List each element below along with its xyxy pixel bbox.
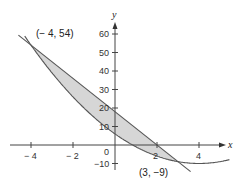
x-axis-arrow-icon xyxy=(219,143,226,148)
x-tick-label: − 4 xyxy=(24,151,37,161)
x-tick-label: 2 xyxy=(153,151,158,161)
x-tick-label: − 2 xyxy=(66,151,79,161)
x-tick-label: 4 xyxy=(196,151,201,161)
y-tick-label: 40 xyxy=(99,66,109,76)
y-tick-label: 60 xyxy=(99,29,109,39)
point-label: (− 4, 54) xyxy=(36,28,74,39)
y-tick-label: 50 xyxy=(99,48,109,58)
chart: − 4 − 2 2 4 0 60 50 40 30 20 10 −10 x y … xyxy=(0,0,238,180)
y-tick-label: 30 xyxy=(99,85,109,95)
y-tick-label: 10 xyxy=(99,122,109,132)
y-tick-label: 20 xyxy=(99,103,109,113)
y-axis-arrow-icon xyxy=(113,22,118,29)
y-axis-label: y xyxy=(111,9,117,20)
origin-label: 0 xyxy=(104,147,109,157)
point-label: (3, −9) xyxy=(139,167,168,178)
y-tick-label: −10 xyxy=(94,159,109,169)
x-axis-label: x xyxy=(227,139,233,150)
